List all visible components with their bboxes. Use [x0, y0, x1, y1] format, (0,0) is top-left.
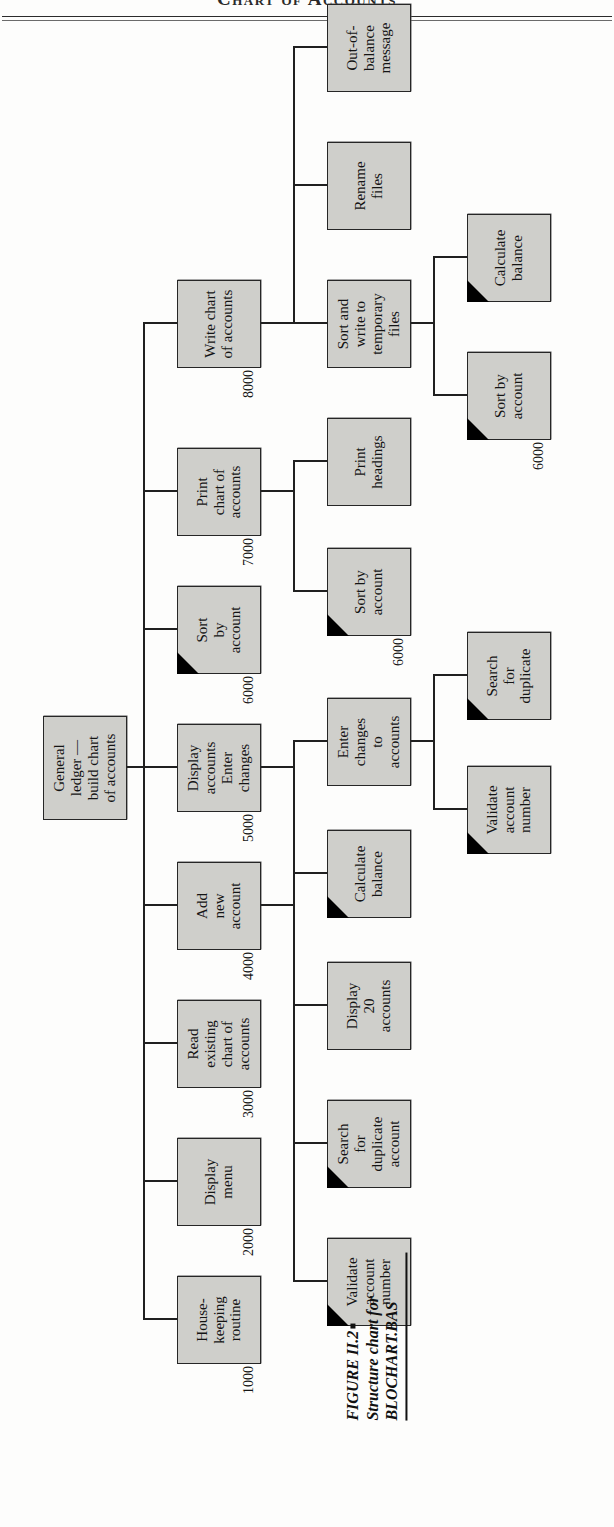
node-label: Readexistingchart ofaccounts [185, 1018, 252, 1070]
connector-vertical [143, 490, 177, 492]
connector-vertical [293, 46, 327, 48]
node-sortacct1: Sort byaccount [327, 548, 411, 636]
node-sortwrite: Sort andwrite totemporaryfiles [327, 280, 411, 368]
caption-line-2: Structure chart for [363, 1235, 383, 1421]
connector-vertical [293, 590, 327, 592]
structure-chart: Generalledger —build chartof accountsHou… [27, 0, 587, 1382]
connector-vertical [411, 322, 433, 324]
connector-vertical [433, 808, 467, 810]
connector-horizontal [293, 462, 295, 592]
node-label: House-keepingroutine [194, 1296, 244, 1343]
node-n1000: House-keepingroutine [177, 1276, 261, 1364]
node-label: Enterchangestoaccounts [335, 716, 402, 768]
node-n3000: Readexistingchart ofaccounts [177, 1000, 261, 1088]
node-n6000: Sortbyaccount [177, 586, 261, 674]
connector-vertical [143, 1318, 177, 1320]
node-label: Display20accounts [344, 980, 394, 1032]
node-label: Searchforduplicateaccount [335, 1116, 402, 1171]
node-sortacct2: Sort byaccount [467, 352, 551, 440]
node-label: Printchart ofaccounts [194, 466, 244, 518]
node-label: DisplayaccountsEnterchanges [185, 742, 252, 794]
connector-vertical [293, 1280, 327, 1282]
node-label: Sort byaccount [492, 373, 526, 420]
connector-vertical [293, 1004, 327, 1006]
connector-vertical [143, 904, 177, 906]
node-ref-n6000: 6000 [241, 676, 257, 704]
caption-line-3: BLOCHART.BAS [382, 1235, 402, 1421]
caption-rule [405, 1253, 407, 1421]
node-ref-n5000: 5000 [241, 814, 257, 842]
node-searchdup2: Searchforduplicate [467, 632, 551, 720]
node-n5000: DisplayaccountsEnterchanges [177, 724, 261, 812]
node-display20: Display20accounts [327, 962, 411, 1050]
node-label: Displaymenu [202, 1159, 236, 1206]
node-label: Searchforduplicate [484, 648, 534, 703]
node-rename: Renamefiles [327, 142, 411, 230]
node-ref-n3000: 3000 [241, 1090, 257, 1118]
connector-vertical [143, 766, 177, 768]
node-label: Sort byaccount [352, 569, 386, 616]
connector-vertical [261, 490, 293, 492]
connector-horizontal [143, 324, 145, 1320]
node-label: Generalledger —build chartof accounts [51, 734, 118, 803]
node-root: Generalledger —build chartof accounts [43, 716, 127, 820]
connector-vertical [261, 766, 293, 768]
connector-vertical [261, 322, 293, 324]
node-calcbal2: Calculatebalance [467, 214, 551, 302]
connector-vertical [293, 184, 327, 186]
node-calcbal1: Calculatebalance [327, 830, 411, 918]
node-ref-n8000: 8000 [241, 370, 257, 398]
node-n7000: Printchart ofaccounts [177, 448, 261, 536]
node-printhead: Printheadings [327, 418, 411, 506]
figure-caption-block: FIGURE II.2 Structure chart for BLOCHART… [408, 1327, 608, 1517]
node-label: Calculatebalance [352, 846, 386, 903]
connector-vertical [293, 322, 327, 324]
connector-vertical [143, 1180, 177, 1182]
connector-horizontal [433, 676, 435, 810]
figure-stage: Generalledger —build chartof accountsHou… [0, 0, 614, 1527]
node-ref-n4000: 4000 [241, 952, 257, 980]
node-label: Validateaccountnumber [484, 785, 534, 834]
connector-vertical [261, 904, 293, 906]
connector-vertical [143, 628, 177, 630]
node-ref-sortacct1: 6000 [391, 638, 407, 666]
node-label: Printheadings [352, 435, 386, 488]
node-n2000: Displaymenu [177, 1138, 261, 1226]
node-label: Renamefiles [352, 161, 386, 210]
connector-vertical [433, 674, 467, 676]
figure-number: FIGURE II.2 [344, 1331, 361, 1421]
node-n8000: Write chartof accounts [177, 280, 261, 368]
node-label: Addnewaccount [194, 883, 244, 930]
connector-vertical [143, 1042, 177, 1044]
node-enterchg: Enterchangestoaccounts [327, 698, 411, 786]
connector-vertical [293, 1142, 327, 1144]
node-label: Sortbyaccount [194, 607, 244, 654]
node-ref-sortacct2: 6000 [531, 442, 547, 470]
node-label: Calculatebalance [492, 230, 526, 287]
node-validate2: Validateaccountnumber [467, 766, 551, 854]
connector-vertical [293, 740, 327, 742]
connector-vertical [143, 322, 177, 324]
connector-vertical [293, 872, 327, 874]
caption-bullet-icon [351, 1324, 356, 1329]
node-ref-n1000: 1000 [241, 1366, 257, 1394]
node-label: Out-of-balancemessage [344, 22, 394, 73]
node-ref-n7000: 7000 [241, 538, 257, 566]
node-n4000: Addnewaccount [177, 862, 261, 950]
connector-horizontal [433, 258, 435, 396]
node-searchdup1: Searchforduplicateaccount [327, 1100, 411, 1188]
node-label: Sort andwrite totemporaryfiles [335, 293, 402, 355]
node-ref-n2000: 2000 [241, 1228, 257, 1256]
node-outofbal: Out-of-balancemessage [327, 4, 411, 92]
connector-vertical [293, 460, 327, 462]
connector-vertical [433, 256, 467, 258]
connector-vertical [127, 766, 143, 768]
connector-vertical [433, 394, 467, 396]
connector-vertical [411, 740, 433, 742]
node-label: Write chartof accounts [202, 290, 236, 359]
